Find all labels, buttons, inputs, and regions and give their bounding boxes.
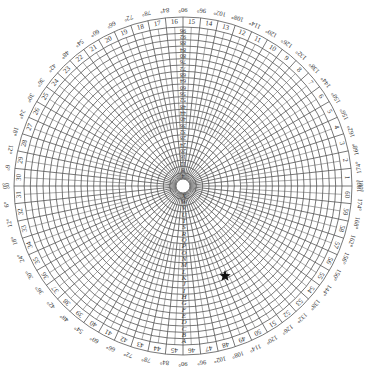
- degree-label-top: 36°: [35, 77, 46, 89]
- sector-number: 15: [188, 18, 196, 26]
- degree-label-bottom: 144°: [320, 284, 333, 298]
- top-spoke-label: 72: [180, 66, 186, 72]
- degree-label-top: 30°: [25, 92, 36, 104]
- degree-label-bottom: 150°: [331, 268, 343, 283]
- degree-label-bottom: 0°: [1, 183, 8, 189]
- degree-label-top: 66°: [105, 20, 117, 30]
- degree-label-bottom: 66°: [105, 343, 117, 353]
- degree-label-bottom: 30°: [23, 269, 34, 281]
- degree-label-top: 24°: [17, 109, 27, 121]
- sector-number: 3: [337, 141, 346, 147]
- top-spoke-label: 36: [180, 123, 186, 129]
- sector-number: 43: [136, 340, 145, 350]
- sector-number: 14: [205, 19, 214, 28]
- sector-number: 16: [171, 18, 179, 26]
- top-spoke-label: 48: [180, 104, 186, 110]
- degree-label-bottom: 78°: [140, 356, 151, 365]
- degree-label-top: 162°: [345, 124, 356, 138]
- sector-number: 34: [24, 240, 34, 250]
- degree-label-bottom: 126°: [280, 324, 294, 337]
- degree-label-top: 90°: [178, 7, 188, 14]
- degree-label-top: 84°: [159, 7, 169, 15]
- sector-number: 5: [325, 108, 334, 115]
- degree-label-top: 120°: [264, 27, 279, 39]
- degree-label-bottom: 114°: [248, 343, 262, 354]
- sector-number: 32: [16, 207, 25, 216]
- sector-number: 49: [237, 334, 247, 344]
- top-spoke-label: 16: [180, 154, 186, 160]
- top-spoke-label: 4: [182, 173, 185, 179]
- sector-number: 41: [103, 327, 113, 338]
- degree-label-top: 60°: [89, 28, 101, 39]
- degree-label-bottom: 162°: [347, 234, 358, 248]
- degree-label-bottom: 84°: [159, 359, 169, 367]
- grid-spoke: [148, 21, 182, 179]
- degree-label-top: 168°: [350, 142, 359, 156]
- grid-spoke: [190, 151, 348, 185]
- degree-label-bottom: 48°: [58, 312, 70, 324]
- sector-number: 56: [324, 256, 335, 266]
- sector-number: 12: [237, 28, 247, 38]
- degree-label-top: 174°: [354, 161, 362, 174]
- degree-label-top: 72°: [123, 14, 134, 24]
- top-spoke-label: 52: [180, 97, 186, 103]
- top-spoke-label: 28: [180, 135, 186, 141]
- top-spoke-label: 24: [180, 142, 186, 148]
- degree-label-bottom: 36°: [33, 285, 44, 297]
- sector-number: 9: [283, 54, 291, 63]
- sector-number: 45: [170, 346, 178, 354]
- top-spoke-label: 8: [182, 167, 185, 173]
- degree-label-bottom: 72°: [122, 350, 133, 360]
- sector-number: 13: [221, 22, 230, 32]
- degree-label-top: 12°: [6, 144, 15, 155]
- degree-label-bottom: 108°: [231, 350, 245, 361]
- degree-label-top: 108°: [230, 13, 244, 24]
- sector-number: 33: [19, 224, 29, 233]
- top-spoke-label: 12: [180, 161, 186, 167]
- grid-spoke: [18, 187, 176, 221]
- sector-number: 50: [252, 327, 262, 338]
- bottom-spoke-label: X: [181, 192, 187, 200]
- grid-spoke: [18, 151, 176, 185]
- grid-spoke: [190, 187, 348, 221]
- degree-label-top: 6°: [4, 164, 12, 171]
- degree-label-top: 18°: [11, 126, 21, 137]
- degree-label-bottom: 132°: [295, 312, 309, 326]
- degree-label-bottom: 42°: [45, 299, 57, 311]
- top-spoke-label: 96: [180, 28, 186, 34]
- top-spoke-label: 92: [180, 34, 186, 40]
- degree-label-bottom: 102°: [213, 355, 227, 364]
- degree-label-bottom: 180°: [358, 180, 365, 193]
- sector-number: 7: [307, 79, 316, 87]
- degree-label-bottom: 54°: [72, 324, 84, 335]
- degree-label-bottom: 120°: [265, 334, 280, 346]
- top-spoke-label: 32: [180, 129, 186, 135]
- degree-label-bottom: 174°: [356, 198, 364, 211]
- sector-number: 6: [317, 93, 326, 101]
- sector-number: 27: [25, 122, 35, 132]
- degree-label-bottom: 24°: [15, 252, 25, 264]
- sector-number: 26: [31, 106, 42, 116]
- degree-label-top: 78°: [141, 9, 152, 18]
- sector-number: 48: [221, 340, 230, 350]
- degree-label-bottom: 12°: [4, 217, 13, 228]
- sector-number: 30: [15, 173, 23, 181]
- top-spoke-label: 80: [180, 53, 186, 59]
- sector-number: 44: [153, 344, 162, 353]
- degree-label-bottom: 138°: [308, 298, 322, 312]
- sector-number: 35: [31, 255, 42, 265]
- grid-spoke: [148, 193, 182, 351]
- top-spoke-label: 88: [180, 40, 186, 46]
- degree-label-bottom: 156°: [340, 251, 352, 265]
- sector-number: 29: [16, 156, 25, 165]
- sector-number: 46: [187, 346, 195, 354]
- top-spoke-label: 56: [180, 91, 186, 97]
- sector-number: 47: [204, 344, 213, 353]
- top-spoke-label: 44: [180, 110, 186, 116]
- degree-label-top: 54°: [74, 38, 86, 49]
- sector-number: 42: [119, 334, 129, 344]
- top-spoke-label: 64: [180, 78, 186, 84]
- sector-number: 59: [341, 208, 350, 217]
- sector-number: 1: [343, 175, 351, 179]
- top-spoke-label: 20: [180, 148, 186, 154]
